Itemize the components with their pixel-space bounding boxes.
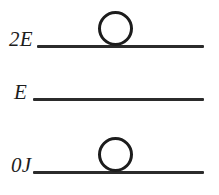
energy-level-label-top: 2E bbox=[9, 29, 33, 50]
particle-circle-top bbox=[98, 11, 133, 46]
energy-level-diagram: 2E E 0J bbox=[0, 0, 219, 195]
energy-level-label-middle: E bbox=[14, 82, 27, 103]
energy-level-label-bottom: 0J bbox=[11, 155, 31, 176]
energy-level-line-middle bbox=[33, 98, 204, 101]
particle-circle-bottom bbox=[98, 137, 133, 172]
energy-level-line-top bbox=[37, 45, 204, 48]
